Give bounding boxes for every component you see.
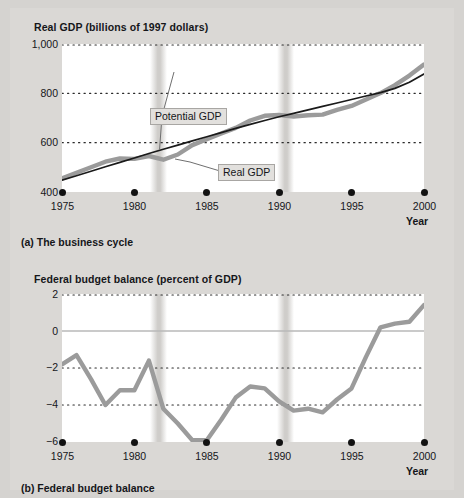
panel-b-tick-dot-1975 — [59, 439, 66, 446]
panel-a-tick-dot-2000 — [421, 189, 428, 196]
panel-a-tick-dot-1975 — [59, 189, 66, 196]
panel-b-chart-svg — [62, 294, 424, 442]
series-federal-budget-balance — [62, 305, 424, 440]
panel-b-xtick-1975: 1975 — [34, 450, 91, 462]
panel-b-tick-dot-1990 — [276, 439, 283, 446]
panel-b-xtick-1990: 1990 — [251, 450, 308, 462]
panel-b-tick-dot-1980 — [131, 439, 138, 446]
panel-b-xtick-2000: 2000 — [396, 450, 453, 462]
panel-a-xtick-1985: 1985 — [179, 200, 236, 212]
panel-b-ytick-2: 2 — [14, 288, 58, 300]
panel-federal-budget-balance: Federal budget balance (percent of GDP) — [10, 256, 454, 490]
panel-b-xaxis-name: Year — [406, 465, 428, 477]
panel-business-cycle: Real GDP (billions of 1997 dollars) — [10, 8, 454, 248]
panel-b-xtick-1995: 1995 — [324, 450, 381, 462]
panel-a-xtick-1995: 1995 — [324, 200, 381, 212]
panel-a-tick-dot-1980 — [131, 189, 138, 196]
panel-a-ytick-1000: 1,000 — [14, 38, 58, 50]
panel-a-xtick-1990: 1990 — [251, 200, 308, 212]
panel-b-tick-dot-2000 — [421, 439, 428, 446]
figure-card: Real GDP (billions of 1997 dollars) — [10, 8, 454, 490]
panel-a-ytick-600: 600 — [14, 136, 58, 148]
callout-real-gdp: Real GDP — [218, 164, 275, 181]
callout-potential-gdp: Potential GDP — [150, 108, 227, 125]
panel-b-xtick-1980: 1980 — [106, 450, 163, 462]
panel-a-ytick-400: 400 — [14, 186, 58, 198]
panel-a-xtick-1975: 1975 — [34, 200, 91, 212]
panel-b-xtick-1985: 1985 — [179, 450, 236, 462]
panel-b-ytick-minus6: −6 — [14, 435, 58, 447]
panel-b-ytick-0: 0 — [14, 325, 58, 337]
panel-a-tick-dot-1995 — [348, 189, 355, 196]
panel-b-plot-area — [62, 294, 424, 442]
panel-a-tick-dot-1990 — [276, 189, 283, 196]
panel-b-tick-dot-1985 — [203, 439, 210, 446]
panel-b-tick-dot-1995 — [348, 439, 355, 446]
panel-a-xtick-2000: 2000 — [396, 200, 453, 212]
panel-a-caption: (a) The business cycle — [21, 236, 133, 248]
panel-a-xaxis-name: Year — [406, 215, 428, 227]
panel-b-caption: (b) Federal budget balance — [21, 482, 155, 494]
panel-b-ytick-minus4: −4 — [14, 398, 58, 410]
panel-a-title: Real GDP (billions of 1997 dollars) — [34, 21, 208, 33]
panel-a-xtick-1980: 1980 — [106, 200, 163, 212]
panel-a-ytick-800: 800 — [14, 87, 58, 99]
panel-b-title: Federal budget balance (percent of GDP) — [34, 273, 242, 285]
series-real-gdp — [62, 65, 424, 179]
recession-band-1990 — [277, 294, 294, 442]
callout-leader-real — [175, 159, 220, 171]
panel-b-ytick-minus2: −2 — [14, 361, 58, 373]
figure-root: Real GDP (billions of 1997 dollars) — [0, 0, 464, 498]
panel-a-tick-dot-1985 — [203, 189, 210, 196]
